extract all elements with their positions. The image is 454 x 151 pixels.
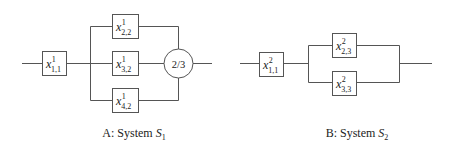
system-b-split-bus [309,46,333,83]
component-box-a-x22: x12,2 [113,15,139,39]
component-box-b-x11: x21,1 [260,53,284,77]
svg-text:2/3: 2/3 [172,59,185,70]
component-box-b-x33: x23,3 [333,72,357,96]
reliability-diagrams: x11,1 x12,2 x13,2 x14,2 2/3 [0,0,454,151]
system-a-diagram: x11,1 x12,2 x13,2 x14,2 2/3 [22,15,212,143]
voter-2-of-3-node: 2/3 [164,49,193,78]
system-a-top-to-voter-line [139,27,179,50]
system-a-caption: A: System S1 [102,126,165,142]
system-b-merge-bus [357,46,400,83]
component-box-b-x23: x22,3 [333,34,357,58]
component-box-a-x32: x13,2 [113,52,139,76]
component-box-a-x42: x14,2 [113,89,139,113]
system-b-diagram: x21,1 x22,3 x23,3 B: System S2 [240,34,432,143]
system-b-caption: B: System S2 [326,126,389,142]
system-a-bottom-to-voter-line [139,78,179,101]
component-box-a-x11: x11,1 [43,52,67,76]
